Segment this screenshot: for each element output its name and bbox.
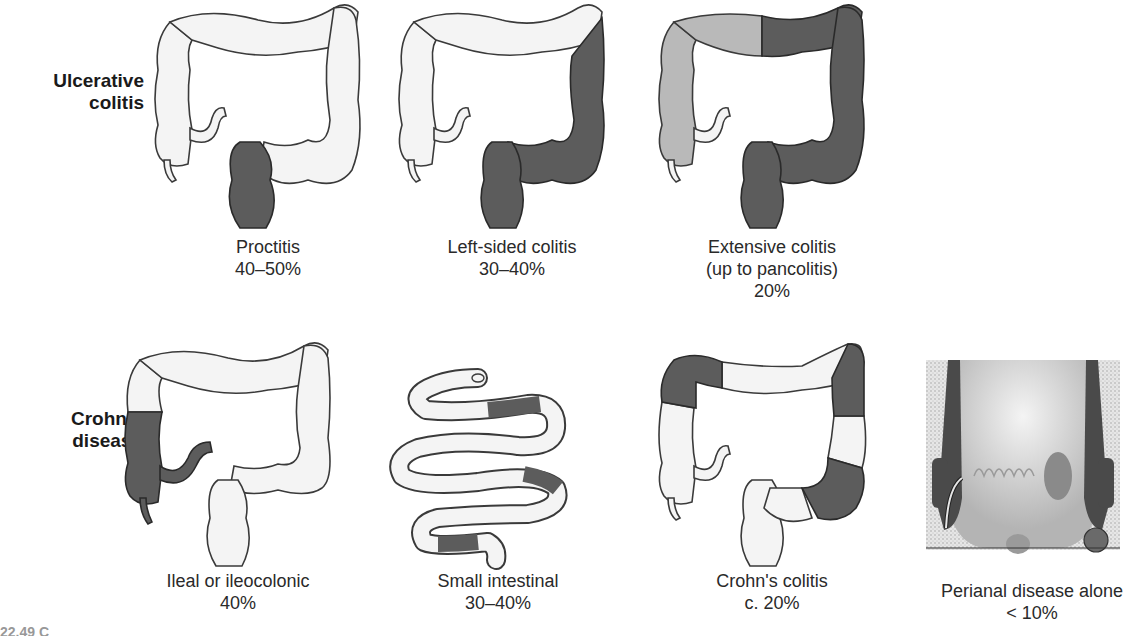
caption-subtitle: (up to pancolitis) <box>652 258 892 280</box>
caption-proctitis: Proctitis 40–50% <box>148 236 388 280</box>
caption-title: Perianal disease alone <box>918 580 1146 602</box>
caption-percent: < 10% <box>918 602 1146 624</box>
caption-title: Crohn's colitis <box>652 570 892 592</box>
caption-extensive-colitis: Extensive colitis (up to pancolitis) 20% <box>652 236 892 302</box>
colon-illustration-ileal <box>118 338 358 578</box>
caption-percent: 40–50% <box>148 258 388 280</box>
caption-percent: 40% <box>118 592 358 614</box>
caption-ileal-ileocolonic: Ileal or ileocolonic 40% <box>118 570 358 614</box>
figure-caption-fragment: 22.49 C <box>0 624 49 636</box>
caption-percent: 30–40% <box>378 592 618 614</box>
caption-left-sided-colitis: Left-sided colitis 30–40% <box>392 236 632 280</box>
colon-illustration-left-sided <box>392 0 632 240</box>
small-intestine-illustration <box>378 338 618 578</box>
caption-percent: c. 20% <box>652 592 892 614</box>
row-label-ulcerative-colitis: Ulcerative colitis <box>0 70 144 114</box>
caption-small-intestinal: Small intestinal 30–40% <box>378 570 618 614</box>
panel-perianal-disease: Perianal disease alone < 10% <box>918 358 1146 636</box>
caption-perianal-disease: Perianal disease alone < 10% <box>918 580 1146 624</box>
colon-illustration-extensive <box>652 0 892 240</box>
panel-extensive-colitis: Extensive colitis (up to pancolitis) 20% <box>652 0 892 240</box>
panel-proctitis: Proctitis 40–50% <box>148 0 388 240</box>
colon-illustration-proctitis <box>148 0 388 240</box>
panel-left-sided-colitis: Left-sided colitis 30–40% <box>392 0 632 240</box>
caption-percent: 30–40% <box>392 258 632 280</box>
colon-illustration-crohns-colitis <box>652 338 892 578</box>
caption-title: Small intestinal <box>378 570 618 592</box>
panel-small-intestinal: Small intestinal 30–40% <box>378 338 618 578</box>
caption-title: Extensive colitis <box>652 236 892 258</box>
caption-crohns-colitis: Crohn's colitis c. 20% <box>652 570 892 614</box>
panel-crohns-colitis: Crohn's colitis c. 20% <box>652 338 892 578</box>
caption-percent: 20% <box>652 280 892 302</box>
panel-ileal-ileocolonic: Ileal or ileocolonic 40% <box>118 338 358 578</box>
caption-title: Left-sided colitis <box>392 236 632 258</box>
perianal-illustration <box>918 358 1128 558</box>
row-label-line: Ulcerative <box>0 70 144 92</box>
row-label-line: colitis <box>0 92 144 114</box>
caption-title: Proctitis <box>148 236 388 258</box>
caption-title: Ileal or ileocolonic <box>118 570 358 592</box>
